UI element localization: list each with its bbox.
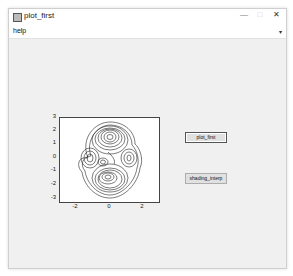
maximize-button[interactable]: □: [253, 10, 267, 19]
y-tick: -3: [46, 194, 56, 200]
y-tick: 0: [46, 153, 56, 159]
title-bar: plot_first — □ ✕: [9, 9, 286, 25]
window-title: plot_first: [24, 11, 54, 20]
y-tick: 3: [46, 113, 56, 119]
close-button[interactable]: ✕: [269, 10, 283, 19]
figure-window: plot_first — □ ✕ help ▾ 3 2 1 0 -1 -2 -3…: [8, 8, 287, 269]
y-tick: -1: [46, 166, 56, 172]
menu-help[interactable]: help: [13, 27, 26, 34]
shading-interp-button[interactable]: shading_interp: [185, 173, 227, 184]
y-tick: 2: [46, 126, 56, 132]
contour-plot: [60, 118, 159, 202]
toolbar-toggle-icon[interactable]: ▾: [279, 28, 282, 35]
menu-bar: help ▾: [9, 25, 286, 39]
plot-first-button[interactable]: plot_first: [185, 132, 227, 143]
minimize-button[interactable]: —: [237, 10, 251, 19]
contour-axes[interactable]: [59, 117, 160, 203]
figure-icon: [13, 13, 22, 22]
y-tick: -2: [46, 180, 56, 186]
y-tick: 1: [46, 139, 56, 145]
figure-canvas: 3 2 1 0 -1 -2 -3 -2 0 2: [9, 39, 286, 268]
